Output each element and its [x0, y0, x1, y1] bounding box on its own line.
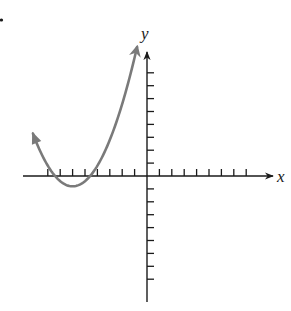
graph-figure: x y — [0, 0, 291, 311]
curve-left-arrow-icon — [32, 132, 41, 145]
coordinate-plane: x y — [0, 0, 291, 311]
x-axis-label: x — [276, 167, 285, 186]
y-axis-label: y — [139, 24, 149, 43]
parabola-curve — [33, 47, 137, 186]
marker-dot — [0, 18, 3, 21]
